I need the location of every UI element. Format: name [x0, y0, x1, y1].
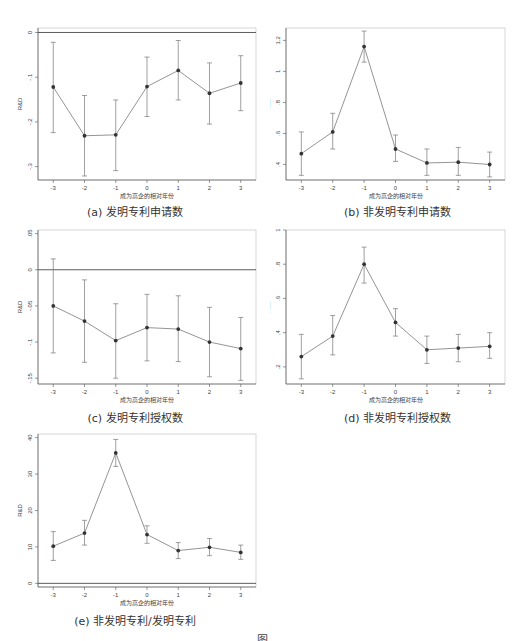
chart-d-svg: 1.8.6.4.2R&D-3-2-10123成为高企的相对年份 [270, 225, 525, 405]
y-tick-label: 10 [27, 543, 33, 550]
data-point [299, 152, 303, 156]
x-tick-label: 0 [145, 389, 149, 395]
chart-panel-d: 1.8.6.4.2R&D-3-2-10123成为高企的相对年份 (d) 非发明专… [270, 225, 525, 430]
y-tick-label: 30 [27, 470, 33, 477]
data-point [83, 319, 87, 323]
y-axis-label: R&D [270, 97, 271, 110]
y-tick-label: .2 [275, 364, 281, 370]
chart-b-svg: 1.21.8.6.4R&D-3-2-10123成为高企的相对年份 [270, 0, 525, 200]
x-tick-label: 0 [394, 389, 398, 395]
y-axis-label: R&D [17, 97, 23, 110]
y-tick-label: -.3 [27, 162, 33, 170]
x-tick-label: 1 [425, 185, 429, 191]
y-tick-label: 40 [27, 434, 33, 441]
x-tick-label: -2 [82, 592, 88, 598]
data-point [425, 161, 429, 165]
y-tick-label: -.1 [27, 73, 33, 81]
y-tick-label: -.15 [27, 372, 33, 383]
x-tick-label: -2 [330, 185, 336, 191]
x-tick-label: 2 [208, 185, 212, 191]
x-axis-label: 成为高企的相对年份 [120, 396, 174, 404]
x-axis-label: 成为高企的相对年份 [369, 192, 423, 200]
chart-panel-a: 0-.1-.2-.3R&D-3-2-10123成为高企的相对年份 (a) 发明专… [0, 0, 270, 225]
y-axis-label: R&D [17, 504, 23, 517]
x-tick-label: -1 [113, 592, 119, 598]
x-tick-label: -1 [361, 185, 367, 191]
plot-frame [286, 230, 505, 384]
y-axis-label: R&D [17, 300, 23, 313]
y-axis-label: R&D [270, 300, 271, 313]
x-axis-label: 成为高企的相对年份 [120, 599, 174, 607]
y-tick-label: 1.2 [275, 36, 281, 45]
data-point [425, 348, 429, 352]
data-point [114, 451, 118, 455]
data-point [299, 355, 303, 359]
data-point [145, 85, 149, 89]
data-point [362, 262, 366, 266]
data-point [362, 45, 366, 49]
data-point [51, 85, 55, 89]
x-tick-label: 2 [457, 185, 461, 191]
x-axis-label: 成为高企的相对年份 [369, 396, 423, 404]
x-tick-label: 0 [145, 185, 149, 191]
chart-c-svg: .050-.05-.1-.15R&D-3-2-10123成为高企的相对年份 [0, 225, 270, 405]
x-tick-label: 1 [177, 185, 181, 191]
y-tick-label: -.1 [27, 338, 33, 346]
x-tick-label: 3 [488, 389, 492, 395]
y-tick-label: 0 [27, 267, 33, 271]
x-tick-label: -1 [113, 185, 119, 191]
data-point [239, 81, 243, 85]
chart-c-caption: (c) 发明专利授权数 [0, 409, 270, 425]
data-point [176, 549, 180, 553]
chart-panel-b: 1.21.8.6.4R&D-3-2-10123成为高企的相对年份 (b) 非发明… [270, 0, 525, 225]
data-point [456, 346, 460, 350]
x-tick-label: 1 [177, 592, 181, 598]
data-point [488, 163, 492, 167]
x-tick-label: 1 [177, 389, 181, 395]
data-point [145, 533, 149, 537]
data-point [176, 327, 180, 331]
y-tick-label: .8 [275, 99, 281, 105]
plot-frame [38, 434, 256, 587]
chart-panel-e: 403020100R&D-3-2-10123成为高企的相对年份 (e) 非发明专… [0, 430, 270, 630]
y-tick-label: 20 [27, 507, 33, 514]
x-tick-label: 2 [208, 389, 212, 395]
x-tick-label: 3 [239, 592, 243, 598]
y-tick-label: .6 [275, 295, 281, 301]
x-tick-label: -3 [299, 389, 305, 395]
y-tick-label: .6 [275, 130, 281, 136]
x-tick-label: 0 [394, 185, 398, 191]
data-point [239, 550, 243, 554]
data-point [208, 545, 212, 549]
y-tick-label: 1 [275, 228, 281, 232]
x-tick-label: -2 [82, 185, 88, 191]
data-point [239, 347, 243, 351]
data-point [114, 133, 118, 137]
x-tick-label: 2 [457, 389, 461, 395]
x-tick-label: 0 [145, 592, 149, 598]
x-tick-label: -3 [299, 185, 305, 191]
data-point [331, 334, 335, 338]
x-tick-label: -3 [51, 389, 57, 395]
chart-b-caption: (b) 非发明专利申请数 [270, 203, 525, 219]
chart-e-caption: (e) 非发明专利/发明专利 [0, 612, 270, 628]
data-point [394, 147, 398, 151]
y-tick-label: 0 [27, 30, 33, 34]
x-tick-label: 1 [425, 389, 429, 395]
y-tick-label: 0 [27, 581, 33, 585]
x-tick-label: -1 [113, 389, 119, 395]
y-tick-label: .4 [275, 161, 281, 167]
data-point [394, 321, 398, 325]
data-point [83, 134, 87, 138]
chart-e-svg: 403020100R&D-3-2-10123成为高企的相对年份 [0, 430, 270, 608]
data-point [51, 544, 55, 548]
y-tick-label: -.2 [27, 118, 33, 126]
x-tick-label: -3 [51, 592, 57, 598]
data-point [456, 160, 460, 164]
data-point [114, 339, 118, 343]
y-tick-label: -.05 [27, 300, 33, 311]
y-tick-label: .05 [27, 229, 33, 238]
x-tick-label: 3 [239, 185, 243, 191]
data-point [51, 304, 55, 308]
data-point [208, 91, 212, 95]
